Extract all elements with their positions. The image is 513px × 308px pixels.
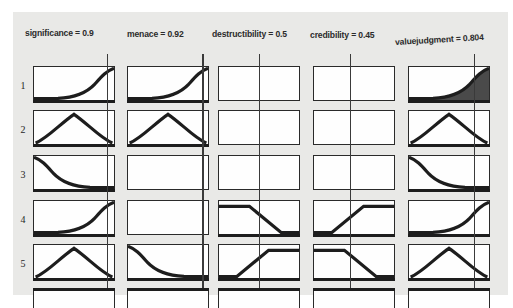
row-label-1: 1 bbox=[16, 80, 30, 91]
row-label-2: 2 bbox=[16, 124, 30, 135]
rule-cell-r5-menace[interactable] bbox=[127, 244, 209, 279]
value-indicator-line-credibility[interactable] bbox=[350, 54, 351, 301]
rule-cell-r3-significance[interactable] bbox=[33, 155, 115, 190]
rule-cell-r6-significance-clipped[interactable] bbox=[33, 289, 115, 308]
column-header-menace: menace = 0.92 bbox=[127, 29, 184, 39]
rule-cell-r3-credibility[interactable] bbox=[313, 155, 395, 190]
rule-cell-r6-credibility-clipped[interactable] bbox=[313, 289, 395, 308]
rule-cell-r4-significance[interactable] bbox=[33, 200, 115, 235]
cell-baseline bbox=[33, 278, 115, 281]
cell-baseline bbox=[127, 100, 209, 103]
value-indicator-line-menace[interactable] bbox=[202, 54, 203, 301]
cell-baseline bbox=[127, 144, 209, 147]
cell-baseline bbox=[127, 278, 209, 281]
rule-cell-r4-credibility[interactable] bbox=[313, 200, 395, 235]
cell-baseline bbox=[33, 100, 115, 103]
row-divider bbox=[408, 288, 490, 291]
row-label-4: 4 bbox=[16, 214, 30, 225]
rule-cell-r5-valuejudgment[interactable] bbox=[408, 244, 490, 279]
row-divider bbox=[33, 288, 115, 291]
row-divider bbox=[313, 288, 395, 291]
rule-cell-r1-credibility[interactable] bbox=[313, 66, 395, 101]
cell-baseline bbox=[408, 144, 490, 147]
rule-cell-r2-menace[interactable] bbox=[127, 110, 209, 145]
rule-cell-r6-destructibility-clipped[interactable] bbox=[218, 289, 300, 308]
rule-cell-r4-menace[interactable] bbox=[127, 200, 209, 235]
cell-baseline bbox=[33, 234, 115, 237]
rule-cell-r6-menace-clipped[interactable] bbox=[127, 289, 209, 308]
column-header-significance: significance = 0.9 bbox=[25, 28, 94, 38]
cell-baseline bbox=[408, 234, 490, 237]
column-header-valuejudgment: valuejudgment = 0.804 bbox=[395, 32, 484, 47]
rule-cell-r2-valuejudgment[interactable] bbox=[408, 110, 490, 145]
row-label-3: 3 bbox=[16, 169, 30, 180]
column-header-credibility: credibility = 0.45 bbox=[310, 30, 374, 40]
cell-baseline bbox=[408, 100, 490, 103]
rule-cell-r2-credibility[interactable] bbox=[313, 110, 395, 145]
cell-baseline bbox=[313, 234, 395, 237]
value-indicator-line-destructibility[interactable] bbox=[259, 54, 260, 301]
cell-baseline bbox=[408, 278, 490, 281]
rule-viewer-screenshot: significance = 0.9 menace = 0.92 destruc… bbox=[0, 0, 513, 308]
value-indicator-line-valuejudgment[interactable] bbox=[474, 54, 475, 301]
rule-cell-r1-significance[interactable] bbox=[33, 66, 115, 101]
column-header-destructibility: destructibility = 0.5 bbox=[212, 29, 287, 39]
rule-cell-r3-menace[interactable] bbox=[127, 155, 209, 190]
row-divider bbox=[127, 288, 209, 291]
rule-cell-r4-valuejudgment[interactable] bbox=[408, 200, 490, 235]
rule-cell-r6-valuejudgment-clipped[interactable] bbox=[408, 289, 490, 308]
rule-cell-r1-menace[interactable] bbox=[127, 66, 209, 101]
cell-baseline bbox=[33, 189, 115, 192]
cell-baseline bbox=[408, 189, 490, 192]
rule-cell-r5-credibility[interactable] bbox=[313, 244, 395, 279]
row-divider bbox=[218, 288, 300, 291]
cell-baseline bbox=[313, 278, 395, 281]
rule-cell-r3-valuejudgment[interactable] bbox=[408, 155, 490, 190]
value-indicator-line-significance[interactable] bbox=[107, 54, 108, 301]
rule-cell-r5-significance[interactable] bbox=[33, 244, 115, 279]
cell-baseline bbox=[33, 144, 115, 147]
row-label-5: 5 bbox=[16, 258, 30, 269]
rule-cell-r2-significance[interactable] bbox=[33, 110, 115, 145]
rule-cell-r1-valuejudgment[interactable] bbox=[408, 66, 490, 101]
